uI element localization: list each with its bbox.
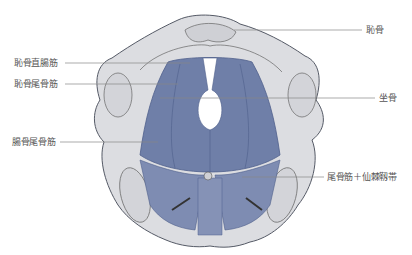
right-acetabulum (288, 73, 316, 117)
pelvic-floor-illustration (0, 0, 412, 255)
label-ischium: 坐骨 (379, 93, 396, 103)
label-pubococcygeus: 恥骨尾骨筋 (14, 79, 58, 89)
label-coccygeus-sacrospinous: 尾骨筋＋仙棘靱帯 (327, 172, 397, 182)
left-acetabulum (104, 73, 132, 117)
label-pubis: 恥骨 (366, 25, 383, 35)
label-iliococcygeus: 腸骨尾骨筋 (12, 137, 56, 147)
coccyx (204, 172, 212, 180)
label-puborectalis: 恥骨直腸筋 (14, 58, 58, 68)
